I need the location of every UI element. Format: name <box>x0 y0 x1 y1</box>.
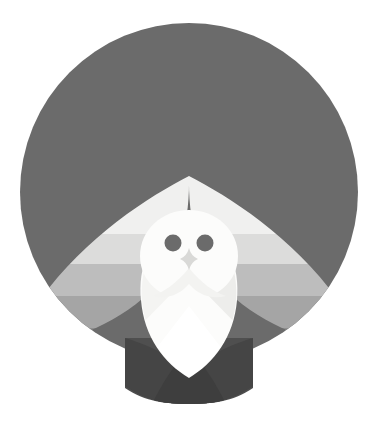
left-eye <box>165 235 182 252</box>
right-eye <box>197 235 214 252</box>
artwork-canvas: Flat Geometric Owl <box>0 0 378 428</box>
owl-illustration <box>0 0 378 428</box>
